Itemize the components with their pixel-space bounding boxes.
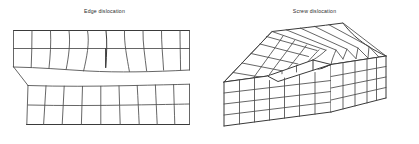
edge-left-step [14, 67, 29, 86]
edge-upper-verticals [14, 31, 190, 72]
edge-dislocation-diagram [0, 0, 209, 144]
edge-lower-horizontals [27, 84, 190, 124]
panel-edge-dislocation: Edge dislocation [0, 0, 209, 144]
screw-right-face [331, 56, 386, 112]
dislocation-figure: Edge dislocation [0, 0, 419, 144]
screw-dislocation-diagram [210, 0, 419, 144]
panel-screw-dislocation: Screw dislocation [210, 0, 419, 144]
